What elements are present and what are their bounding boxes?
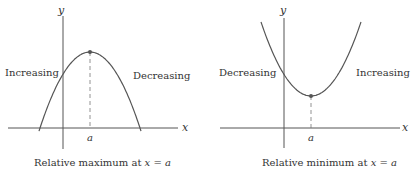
curve-maximum [39,52,141,131]
decreasing-label: Decreasing [219,67,277,78]
caption-minimum: Relative minimum at x = a [262,157,397,168]
panel-minimum: x y a Decreasing Increasing Relative min… [219,4,410,168]
y-axis-label: y [57,4,65,17]
point-a-label: a [87,132,93,143]
y-axis-label: y [279,4,287,17]
x-axis-label: x [182,121,189,134]
curve-minimum [261,22,361,96]
decreasing-label: Decreasing [133,70,191,81]
point-a-label: a [308,132,314,143]
minimum-point [309,94,313,98]
x-axis-label: x [402,121,409,134]
diagram: x y a Increasing Decreasing Relative max… [0,0,411,176]
panel-maximum: x y a Increasing Decreasing Relative max… [5,4,191,168]
caption-maximum: Relative maximum at x = a [34,157,171,168]
increasing-label: Increasing [356,67,410,78]
maximum-point [88,50,92,54]
increasing-label: Increasing [5,67,59,78]
